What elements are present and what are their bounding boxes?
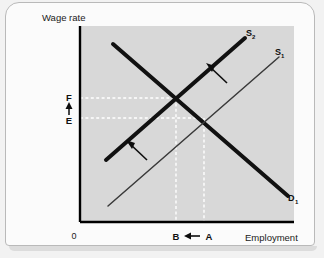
diagram-svg: F E B A 0 Wage rate Employment S 2: [0, 0, 324, 258]
plot-background: [80, 26, 294, 222]
employment-decrease-arrow-head: [184, 233, 191, 240]
x-axis-title: Employment: [245, 232, 298, 243]
curve-label-D1: D: [288, 193, 295, 203]
y-axis-title: Wage rate: [42, 12, 85, 23]
origin-label: 0: [71, 231, 76, 241]
wage-increase-arrow-head: [66, 102, 73, 109]
x-tick-label-A: A: [206, 231, 213, 242]
wage-increase-arrow: [66, 102, 73, 115]
y-tick-label-E: E: [66, 115, 72, 126]
labour-market-diagram: F E B A 0 Wage rate Employment S 2: [0, 0, 324, 258]
employment-decrease-arrow: [184, 233, 200, 240]
x-tick-label-B: B: [173, 231, 180, 242]
figure-page: F E B A 0 Wage rate Employment S 2: [0, 0, 324, 258]
curve-label-D1-subscript: 1: [295, 199, 299, 205]
y-tick-label-F: F: [66, 92, 72, 103]
